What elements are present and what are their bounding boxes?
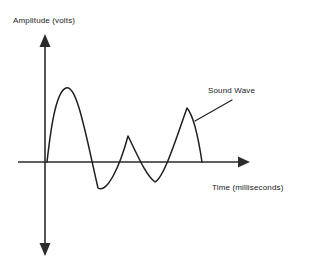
annotation-leader-line — [195, 100, 232, 121]
x-axis-label: Time (milliseconds) — [212, 183, 284, 192]
waveform-curve — [47, 88, 202, 189]
sound-wave-annotation-label: Sound Wave — [208, 86, 255, 95]
sound-wave-diagram: Amplitude (volts) Time (milliseconds) So… — [0, 0, 312, 270]
y-axis-arrow-down-icon — [40, 243, 51, 256]
y-axis-label: Amplitude (volts) — [13, 16, 75, 25]
y-axis-arrow-up-icon — [40, 34, 51, 47]
x-axis-arrow-icon — [238, 157, 250, 168]
